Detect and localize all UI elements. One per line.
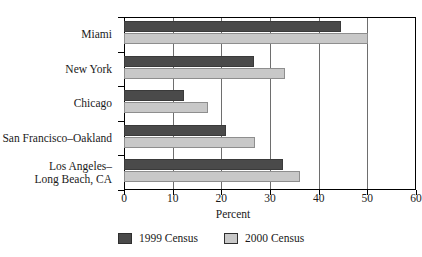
y-axis-label: Chicago <box>0 97 118 110</box>
legend-label: 1999 Census <box>139 232 198 244</box>
x-axis-title-text: Percent <box>216 208 250 220</box>
y-axis-label: Los Angeles– Long Beach, CA <box>0 160 118 185</box>
y-axis-label: Miami <box>0 28 118 41</box>
bar-chart: MiamiNew YorkChicagoSan Francisco–Oaklan… <box>0 0 422 257</box>
legend-swatch <box>224 233 238 244</box>
bar-group <box>124 17 416 52</box>
legend-item: 1999 Census <box>118 232 198 244</box>
y-axis-label: New York <box>0 63 118 76</box>
bar <box>124 90 184 101</box>
bar-series-container <box>124 17 416 190</box>
legend-label: 2000 Census <box>245 232 304 244</box>
bar <box>124 137 255 148</box>
bar <box>124 56 254 67</box>
x-axis-title: Percent <box>0 208 422 220</box>
chart-legend: 1999 Census2000 Census <box>0 232 422 244</box>
legend-swatch <box>118 233 132 244</box>
x-axis-tick-label: 60 <box>410 192 422 204</box>
x-axis-tick-label: 20 <box>216 192 228 204</box>
bar-group <box>124 52 416 87</box>
bar-group <box>124 155 416 190</box>
y-axis-category-labels: MiamiNew YorkChicagoSan Francisco–Oaklan… <box>0 17 118 190</box>
bar-group <box>124 86 416 121</box>
bar <box>124 102 208 113</box>
x-axis-tick-labels: 0102030405060 <box>0 192 422 208</box>
y-axis-label: San Francisco–Oakland <box>0 132 118 145</box>
x-axis-tick-label: 10 <box>167 192 179 204</box>
legend-item: 2000 Census <box>224 232 304 244</box>
bar <box>124 21 341 32</box>
x-axis-tick-label: 40 <box>313 192 325 204</box>
bar <box>124 33 368 44</box>
bar-group <box>124 121 416 156</box>
bar <box>124 171 300 182</box>
x-axis-tick-label: 50 <box>362 192 374 204</box>
x-axis-tick-label: 0 <box>121 192 127 204</box>
bar <box>124 68 285 79</box>
bar <box>124 159 283 170</box>
bar <box>124 125 226 136</box>
x-axis-tick-label: 30 <box>264 192 276 204</box>
